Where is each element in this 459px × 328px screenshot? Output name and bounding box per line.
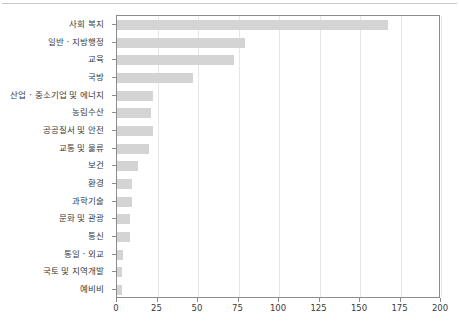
- bar: [117, 267, 122, 277]
- x-axis-tick-label: 0: [113, 303, 118, 313]
- y-axis-tick-mark: [112, 77, 116, 78]
- y-axis-tick-mark: [112, 130, 116, 131]
- y-axis-tick-label: 사회 복지: [69, 18, 104, 30]
- y-axis-tick-label: 농림수산: [72, 106, 104, 118]
- y-axis-tick-label: 과학기술: [72, 195, 104, 207]
- y-axis-category-labels: 사회 복지일반 · 지방행정교육국방산업 · 중소기업 및 에너지농림수산공공질…: [0, 15, 112, 298]
- y-axis-tick-label: 국토 및 지역개발: [43, 265, 104, 277]
- x-axis-tick-mark: [116, 298, 117, 302]
- gridline: [441, 16, 442, 297]
- y-axis-tick-label: 문화 및 관광: [59, 212, 104, 224]
- y-axis-tick-label: 산업 · 중소기업 및 에너지: [10, 89, 104, 101]
- y-axis-tick-label: 국방: [88, 71, 104, 83]
- y-axis-tick-label: 환경: [88, 177, 104, 189]
- x-axis-tick-mark: [278, 298, 279, 302]
- y-axis-tick-mark: [112, 165, 116, 166]
- x-axis-tick-mark: [197, 298, 198, 302]
- bar: [117, 38, 245, 48]
- y-axis-tick-label: 통일 · 외교: [64, 248, 104, 260]
- bar: [117, 20, 388, 30]
- x-axis-tick-label: 50: [192, 303, 203, 313]
- y-axis-tick-label: 보건: [88, 159, 104, 171]
- y-axis-tick-mark: [112, 148, 116, 149]
- bar: [117, 55, 234, 65]
- y-axis-tick-mark: [112, 42, 116, 43]
- bar: [117, 161, 138, 171]
- y-axis-tick-mark: [112, 218, 116, 219]
- x-axis-tick-label: 175: [391, 303, 407, 313]
- x-axis-tick-label: 150: [351, 303, 367, 313]
- x-axis-tick-label: 200: [432, 303, 448, 313]
- bar: [117, 214, 130, 224]
- plot-area: [116, 15, 440, 298]
- bar: [117, 73, 193, 83]
- x-axis-tick-mark: [238, 298, 239, 302]
- y-axis-tick-label: 통신: [88, 230, 104, 242]
- bar-chart-figure: 사회 복지일반 · 지방행정교육국방산업 · 중소기업 및 에너지농림수산공공질…: [0, 0, 459, 328]
- x-axis-tick-mark: [359, 298, 360, 302]
- y-axis-tick-mark: [112, 201, 116, 202]
- y-axis-tick-mark: [112, 183, 116, 184]
- x-axis-tick-label: 25: [151, 303, 162, 313]
- y-axis-tick-label: 일반 · 지방행정: [48, 36, 104, 48]
- x-axis: 0255075100125150175200: [116, 298, 440, 322]
- bar-series: [117, 16, 439, 297]
- x-axis-tick-mark: [157, 298, 158, 302]
- y-axis-tick-mark: [112, 254, 116, 255]
- x-axis-tick-label: 125: [310, 303, 326, 313]
- top-divider-rule: [2, 3, 457, 4]
- y-axis-tick-mark: [112, 59, 116, 60]
- y-axis-tick-mark: [112, 289, 116, 290]
- y-axis-tick-mark: [112, 236, 116, 237]
- bar: [117, 108, 151, 118]
- x-axis-tick-mark: [440, 298, 441, 302]
- y-axis-tick-label: 공공질서 및 안전: [43, 124, 104, 136]
- x-axis-tick-mark: [319, 298, 320, 302]
- bar: [117, 285, 122, 295]
- bar: [117, 179, 132, 189]
- bar: [117, 144, 149, 154]
- bar: [117, 91, 153, 101]
- y-axis-tick-mark: [112, 112, 116, 113]
- y-axis-tick-mark: [112, 271, 116, 272]
- x-axis-tick-label: 75: [232, 303, 243, 313]
- x-axis-tick-label: 100: [270, 303, 286, 313]
- y-axis-tick-label: 예비비: [80, 283, 104, 295]
- y-axis-tick-label: 교육: [88, 53, 104, 65]
- y-axis-tick-mark: [112, 24, 116, 25]
- y-axis-tick-label: 교통 및 물류: [59, 142, 104, 154]
- bar: [117, 197, 132, 207]
- bar: [117, 250, 123, 260]
- y-axis-tick-mark: [112, 95, 116, 96]
- bar: [117, 126, 153, 136]
- bar: [117, 232, 130, 242]
- x-axis-tick-mark: [400, 298, 401, 302]
